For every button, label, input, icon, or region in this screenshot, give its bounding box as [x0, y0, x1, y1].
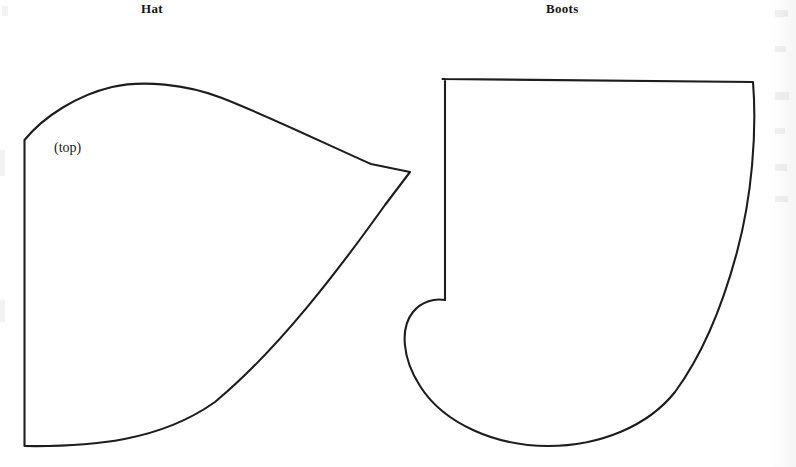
pattern-drawing-layer: [0, 0, 796, 467]
annotation-top: (top): [54, 140, 81, 156]
piece-title-hat: Hat: [141, 1, 163, 17]
piece-title-boots: Boots: [546, 1, 579, 17]
boots-pattern-outline: [405, 79, 755, 446]
pattern-page: Hat Boots (top) (place edge on fold): [0, 0, 796, 467]
hat-pattern-outline: [25, 84, 411, 446]
